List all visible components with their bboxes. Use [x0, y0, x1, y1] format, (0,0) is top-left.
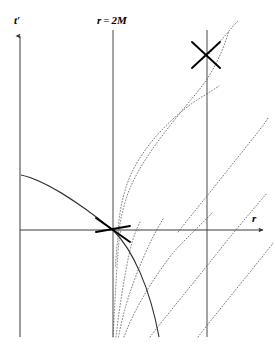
dotted-geodesic-1 — [113, 230, 121, 337]
horizon-line-label: r=2M — [97, 15, 127, 26]
horizon-label-value: 2M — [112, 14, 127, 26]
horizon-label-equals: = — [101, 14, 111, 26]
dotted-geodesic-6 — [116, 32, 229, 266]
dotted-geodesic-7 — [150, 193, 267, 337]
dotted-geodesic-3 — [119, 219, 164, 337]
dotted-geodesic-2 — [116, 222, 140, 337]
dotted-geodesic-5 — [118, 86, 219, 232]
solid-infalling-geodesic — [21, 175, 159, 337]
vertical-axis-label: t′ — [14, 15, 20, 26]
horizontal-axis-label: r — [252, 213, 256, 224]
event-marker-upper — [192, 42, 220, 68]
dotted-geodesic-family — [113, 21, 273, 337]
dotted-geodesic-4 — [124, 213, 212, 337]
diagram-canvas — [0, 0, 275, 349]
dotted-geodesic-8 — [198, 243, 273, 337]
spacetime-diagram-figure: t′ r r=2M — [0, 0, 275, 349]
